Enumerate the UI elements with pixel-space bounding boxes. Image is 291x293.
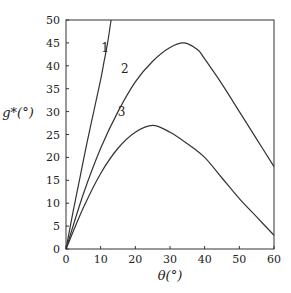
- curve-label-3: 3: [118, 105, 126, 119]
- y-tick-label: 35: [46, 83, 60, 96]
- y-tick-label: 25: [46, 129, 60, 142]
- y-tick-label: 10: [46, 197, 60, 210]
- y-tick-label: 45: [46, 37, 60, 50]
- y-tick-label: 5: [53, 220, 60, 233]
- y-tick-label: 20: [46, 151, 60, 164]
- x-tick-label: 30: [163, 253, 177, 266]
- y-axis-label: g*(°): [2, 105, 33, 120]
- curves: 123: [66, 20, 274, 249]
- x-tick-label: 10: [94, 253, 108, 266]
- curve-3: [66, 125, 274, 249]
- y-tick-label: 40: [46, 60, 60, 73]
- x-tick-label: 0: [63, 253, 70, 266]
- x-tick-label: 40: [198, 253, 212, 266]
- y-tick-label: 30: [46, 106, 60, 119]
- y-tick-label: 15: [46, 174, 60, 187]
- x-tick-label: 20: [128, 253, 142, 266]
- x-tick-label: 50: [232, 253, 246, 266]
- x-tick-label: 60: [267, 253, 281, 266]
- x-axis-label: θ(°): [158, 268, 182, 283]
- curve-label-1: 1: [101, 41, 109, 55]
- axis-labels: θ(°) g*(°): [2, 105, 182, 283]
- curve-2: [66, 43, 274, 249]
- line-chart: 010203040506005101520253035404550 123 θ(…: [0, 0, 291, 293]
- y-tick-label: 0: [53, 243, 60, 256]
- plot-border: [66, 20, 274, 249]
- curve-label-2: 2: [121, 62, 129, 76]
- y-tick-label: 50: [46, 14, 60, 27]
